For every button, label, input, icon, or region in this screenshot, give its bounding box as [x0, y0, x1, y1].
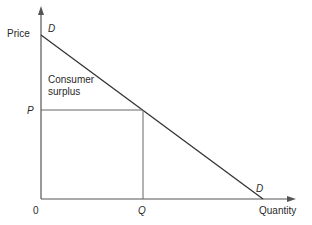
- demand-label-bottom: D: [256, 183, 263, 194]
- y-axis-label: Price: [7, 28, 30, 39]
- region-label-line2: surplus: [48, 86, 80, 97]
- origin-label: 0: [33, 205, 39, 216]
- x-axis-arrow-icon: [287, 196, 296, 202]
- quantity-level-label: Q: [138, 205, 146, 216]
- demand-label-top: D: [48, 23, 55, 34]
- y-axis-arrow-icon: [38, 6, 44, 15]
- region-label-line1: Consumer: [48, 74, 95, 85]
- demand-curve: [41, 35, 263, 199]
- consumer-surplus-diagram: Price D Consumer surplus P D 0 Q Quantit…: [0, 0, 312, 225]
- x-axis-label: Quantity: [259, 205, 296, 216]
- price-level-label: P: [27, 105, 34, 116]
